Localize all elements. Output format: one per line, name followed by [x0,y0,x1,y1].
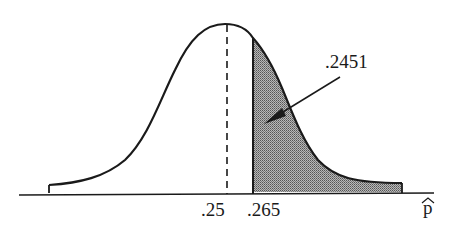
area-label: .2451 [325,51,368,72]
normal-distribution-chart: .2451 .25 .265 p [0,0,462,238]
annotation-arrow [278,77,340,115]
normal-curve [49,24,402,185]
cutoff-tick-label: .265 [247,199,280,220]
mean-tick-label: .25 [201,199,225,220]
x-axis [19,193,434,195]
